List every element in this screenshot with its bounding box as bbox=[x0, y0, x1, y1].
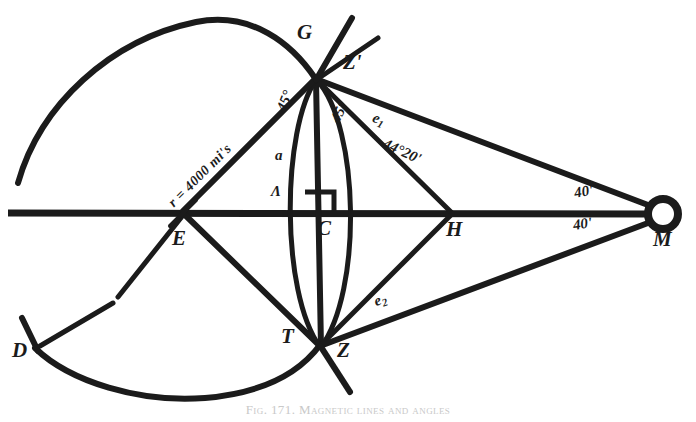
earth-circle-arcs bbox=[18, 20, 320, 399]
earth-arc-upper bbox=[18, 20, 315, 183]
figure-caption: Fig. 171. Magnetic lines and angles bbox=[0, 402, 696, 422]
chord-ET bbox=[184, 214, 320, 346]
ray-TH bbox=[320, 214, 452, 346]
angle-label-lambda: Λ bbox=[271, 184, 281, 199]
ray-TM bbox=[320, 223, 648, 346]
point-label-Z: Z bbox=[337, 340, 350, 361]
point-label-D: D bbox=[12, 340, 27, 361]
segment-ED-tail bbox=[40, 303, 113, 346]
earth-arc-lower bbox=[35, 345, 320, 399]
point-label-T: T bbox=[281, 326, 294, 347]
point-label-E: E bbox=[172, 228, 186, 249]
arcmin-label-lower: 40' bbox=[572, 215, 593, 233]
side-label-a: a bbox=[275, 148, 283, 163]
m-marker-circle bbox=[648, 199, 678, 229]
point-label-H: H bbox=[446, 219, 462, 240]
point-label-G: G bbox=[297, 22, 312, 43]
horizontal-axis bbox=[8, 213, 648, 214]
vertical-chord-GT bbox=[316, 80, 321, 347]
figure-root: G Z' E C H M T Z D r = 4000 mi's 45° 45°… bbox=[0, 0, 696, 422]
point-label-C: C bbox=[317, 218, 331, 239]
point-label-Z-prime: Z' bbox=[343, 52, 362, 73]
ray-GM bbox=[316, 79, 648, 205]
point-label-M: M bbox=[653, 229, 672, 250]
